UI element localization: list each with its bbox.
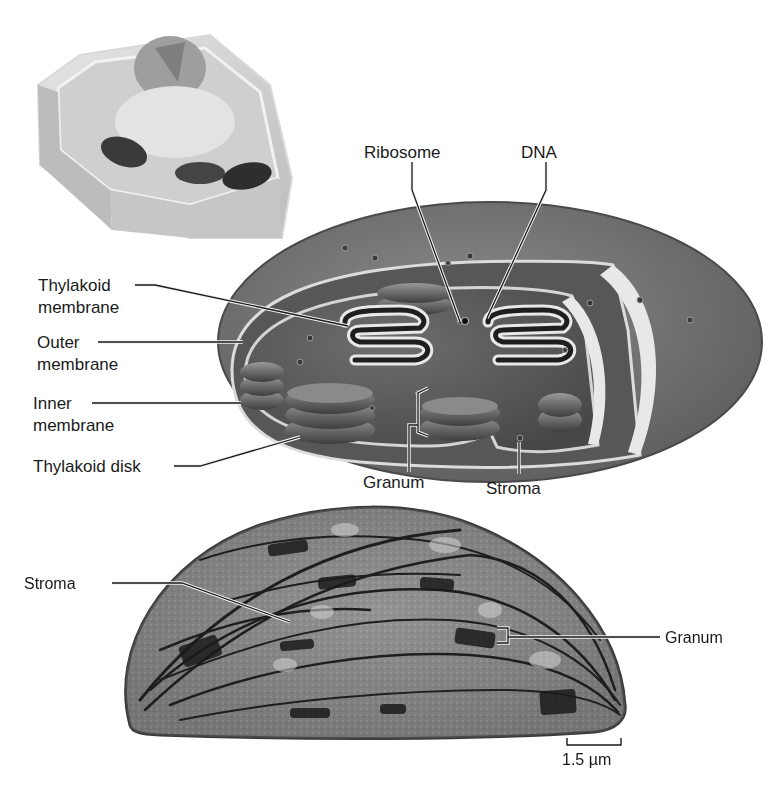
dna-dot bbox=[462, 318, 469, 325]
label-ribosome: Ribosome bbox=[364, 143, 441, 162]
label-outer-membrane: Outer bbox=[37, 333, 80, 352]
label-inner-membrane-line2: membrane bbox=[33, 416, 114, 435]
scale-bar: 1.5 µm bbox=[562, 738, 621, 768]
micrograph-label-stroma: Stroma bbox=[24, 575, 76, 592]
granum-stack-back-left bbox=[240, 362, 284, 410]
label-thylakoid-membrane: Thylakoid bbox=[38, 276, 111, 295]
label-outer-membrane-line2: membrane bbox=[37, 355, 118, 374]
inset-chloroplast bbox=[175, 162, 225, 184]
micrograph-label-granum: Granum bbox=[665, 629, 723, 646]
chloroplast-figure: Ribosome DNA Thylakoid membrane Outer me… bbox=[0, 0, 775, 789]
thylakoid-disk bbox=[287, 383, 373, 403]
label-dna: DNA bbox=[521, 143, 558, 162]
label-inner-membrane: Inner bbox=[33, 394, 72, 413]
label-thylakoid-membrane-line2: membrane bbox=[38, 298, 119, 317]
granum-stack-center bbox=[420, 397, 500, 441]
label-thylakoid-disk: Thylakoid disk bbox=[33, 457, 141, 476]
granum-stack-left bbox=[285, 383, 375, 444]
chloroplast-cutaway bbox=[218, 202, 762, 482]
granum-stack-right bbox=[538, 393, 582, 432]
label-stroma: Stroma bbox=[486, 479, 541, 498]
label-granum: Granum bbox=[363, 473, 424, 492]
plant-cell-inset bbox=[38, 35, 292, 238]
scale-bar-label: 1.5 µm bbox=[562, 751, 611, 768]
electron-micrograph bbox=[126, 507, 626, 738]
